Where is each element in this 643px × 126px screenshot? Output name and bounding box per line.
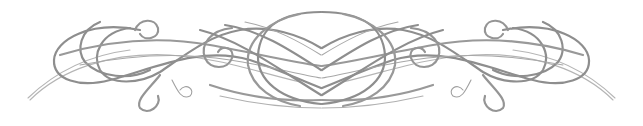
flourish-icon xyxy=(0,0,643,126)
flourish-left-half xyxy=(28,12,321,111)
ornamental-flourish xyxy=(0,0,643,126)
flourish-right-half xyxy=(322,12,615,111)
